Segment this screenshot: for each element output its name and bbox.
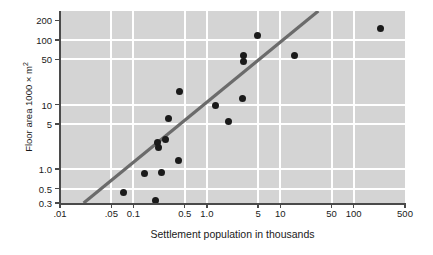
x-tick-label: 500	[397, 208, 413, 219]
y-tick-mark	[55, 188, 59, 190]
y-tick-mark	[55, 168, 59, 170]
scatter-chart-figure: .01.050.10.51.051050100500 200100501051.…	[0, 0, 433, 255]
x-tick-label: 10	[275, 208, 286, 219]
y-tick-label: 50	[41, 54, 52, 65]
x-tick-label: 5	[256, 208, 261, 219]
data-point	[120, 189, 127, 196]
y-tick-label: 0.3	[39, 198, 52, 209]
y-axis-line	[59, 11, 61, 204]
data-point	[162, 136, 169, 143]
y-axis-title-text: Floor area 1000 × m	[23, 66, 34, 152]
y-tick-label: 0.5	[39, 183, 52, 194]
data-point	[176, 88, 183, 95]
y-tick-mark	[55, 104, 59, 106]
x-tick-label: 100	[346, 208, 362, 219]
y-tick-mark	[55, 39, 59, 41]
x-tick-label: 0.1	[127, 208, 140, 219]
x-tick-label: .05	[105, 208, 118, 219]
trend-line	[60, 11, 405, 203]
x-tick-label: 50	[326, 208, 337, 219]
x-tick-label: .01	[53, 208, 66, 219]
data-point	[141, 170, 148, 177]
x-tick-label: 1.0	[200, 208, 213, 219]
plot-area	[60, 11, 405, 203]
data-point	[155, 144, 162, 151]
y-tick-mark	[55, 20, 59, 22]
y-tick-label: 200	[36, 15, 52, 26]
y-tick-label: 5	[47, 119, 52, 130]
y-tick-label: 10	[41, 99, 52, 110]
y-axis-title: Floor area 1000 × m2	[22, 11, 34, 203]
data-point	[291, 52, 298, 59]
y-tick-mark	[55, 123, 59, 125]
y-tick-label: 1.0	[39, 164, 52, 175]
y-tick-label: 100	[36, 34, 52, 45]
x-tick-label: 0.5	[178, 208, 191, 219]
x-axis-title: Settlement population in thousands	[60, 228, 405, 240]
data-point	[377, 25, 384, 32]
y-tick-mark	[55, 59, 59, 61]
y-tick-mark	[55, 202, 59, 204]
y-axis-title-superscript: 2	[22, 62, 29, 66]
